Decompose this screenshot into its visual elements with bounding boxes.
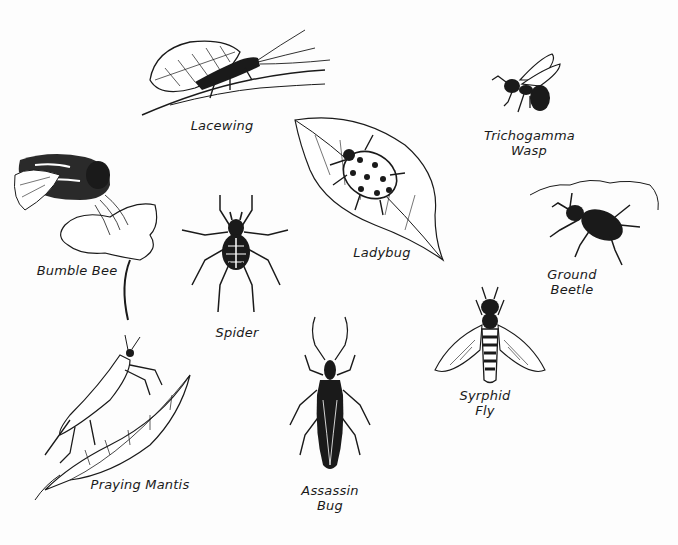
ground-beetle-figure: Ground Beetle [530, 175, 670, 275]
assassin-bug-label-line1: Assassin [290, 483, 370, 498]
syrphid-fly-icon [430, 285, 550, 385]
bumble-bee-label: Bumble Bee [32, 263, 122, 278]
praying-mantis-figure: Praying Mantis [30, 335, 200, 500]
bumble-bee-figure: Bumble Bee [10, 145, 170, 320]
assassin-bug-icon [285, 315, 375, 480]
lacewing-label: Lacewing [182, 118, 262, 133]
syrphid-fly-label-line2: Fly [450, 403, 520, 418]
syrphid-fly-label: Syrphid Fly [450, 388, 520, 418]
ground-beetle-label-line2: Beetle [542, 282, 602, 297]
praying-mantis-label: Praying Mantis [85, 477, 195, 492]
trichogramma-wasp-label-line2: Wasp [484, 143, 574, 158]
ground-beetle-label: Ground Beetle [542, 267, 602, 297]
assassin-bug-label: Assassin Bug [290, 483, 370, 513]
syrphid-fly-label-line1: Syrphid [450, 388, 520, 403]
insect-illustration-canvas: Lacewing Trichogamma Wasp Bumble Bee [0, 0, 678, 545]
assassin-bug-label-line2: Bug [290, 498, 370, 513]
lacewing-icon [140, 20, 340, 120]
spider-figure: Spider [180, 190, 290, 315]
assassin-bug-figure: Assassin Bug [285, 315, 375, 480]
trichogramma-wasp-figure: Trichogamma Wasp [490, 50, 570, 120]
spider-icon [180, 190, 290, 315]
lacewing-figure: Lacewing [140, 20, 340, 120]
bumble-bee-icon [10, 145, 170, 320]
spider-label: Spider [202, 325, 272, 340]
ground-beetle-icon [530, 175, 670, 275]
trichogramma-wasp-label-line1: Trichogamma [484, 128, 574, 143]
syrphid-fly-figure: Syrphid Fly [430, 285, 550, 385]
ladybug-icon [295, 115, 455, 265]
wasp-icon [490, 50, 570, 120]
trichogramma-wasp-label: Trichogamma Wasp [484, 128, 574, 158]
praying-mantis-icon [30, 335, 200, 500]
ground-beetle-label-line1: Ground [542, 267, 602, 282]
ladybug-label: Ladybug [347, 245, 417, 260]
ladybug-figure: Ladybug [295, 115, 455, 265]
